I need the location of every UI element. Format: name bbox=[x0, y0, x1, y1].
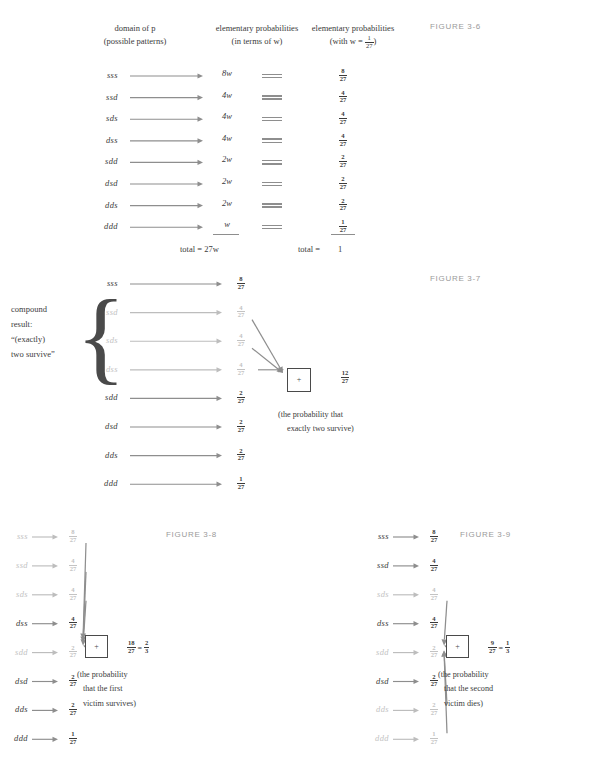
fraction-numerator: 4 bbox=[339, 111, 348, 118]
probability-numeric: 227 bbox=[325, 154, 361, 168]
equals-icon bbox=[262, 115, 282, 123]
probability-in-terms-of-w: 2w bbox=[207, 154, 247, 164]
pattern-row: sds bbox=[0, 111, 589, 125]
probability-in-terms-of-w: 4w bbox=[207, 90, 247, 100]
probability-numeric: 227 bbox=[325, 198, 361, 212]
pattern-label: sds bbox=[88, 113, 118, 123]
sum-arrow bbox=[252, 320, 283, 373]
figure-3-9: FIGURE 3-9 sss827ssd427sds427dss427sdd22… bbox=[294, 520, 589, 777]
probability-in-terms-of-w: w bbox=[207, 219, 247, 229]
fraction-numerator: 4 bbox=[339, 133, 348, 140]
probability-fraction: 227 bbox=[339, 198, 348, 212]
equals-icon bbox=[262, 223, 282, 231]
equals-sign: = bbox=[136, 644, 145, 653]
pattern-row: sdd bbox=[0, 154, 589, 168]
equals-icon bbox=[262, 137, 282, 145]
fraction-denominator: 27 bbox=[339, 183, 348, 191]
pattern-label: sss bbox=[88, 70, 118, 80]
pattern-label: ddd bbox=[88, 221, 118, 231]
note-line-2: that the second bbox=[438, 682, 578, 696]
total-rule-w bbox=[213, 234, 239, 235]
pattern-label: ssd bbox=[88, 92, 118, 102]
note-line-1: (the probability bbox=[77, 668, 207, 682]
pattern-row: ssd bbox=[0, 90, 589, 104]
probability-fraction: 127 bbox=[339, 219, 348, 233]
probability-numeric: 427 bbox=[325, 90, 361, 104]
figure-3-7-note: (the probability that exactly two surviv… bbox=[278, 408, 418, 437]
probability-numeric: 827 bbox=[325, 68, 361, 82]
probability-fraction: 427 bbox=[339, 133, 348, 147]
pattern-label: dds bbox=[88, 200, 118, 210]
sum-box[interactable]: + bbox=[287, 368, 311, 392]
flow-arrow bbox=[258, 367, 284, 372]
probability-numeric: 127 bbox=[325, 219, 361, 233]
equals-icon bbox=[262, 180, 282, 188]
pattern-label: dss bbox=[88, 135, 118, 145]
fraction-denominator: 27 bbox=[339, 161, 348, 169]
simplified-fraction: 1 3 bbox=[505, 640, 510, 654]
note-line-3: victim dies) bbox=[438, 697, 578, 711]
equals-sign: = bbox=[497, 644, 506, 653]
figure-3-8: FIGURE 3-8 sss827ssd427sds427dss427sdd22… bbox=[0, 520, 295, 777]
figure-3-9-sum-arrows bbox=[294, 520, 589, 777]
pattern-label: sdd bbox=[88, 156, 118, 166]
sum-box[interactable]: + bbox=[85, 635, 108, 658]
probability-in-terms-of-w: 8w bbox=[207, 68, 247, 78]
probability-fraction: 427 bbox=[339, 90, 348, 104]
fraction-numerator: 1 bbox=[339, 219, 348, 226]
probability-numeric: 427 bbox=[325, 111, 361, 125]
total-rule-numeric bbox=[331, 234, 355, 235]
probability-fraction: 227 bbox=[339, 154, 348, 168]
figure-3-7-result: 12 27 bbox=[330, 370, 360, 384]
equals-icon bbox=[262, 158, 282, 166]
equals-icon bbox=[262, 202, 282, 210]
simplified-fraction: 2 3 bbox=[144, 640, 149, 654]
figure-3-7: FIGURE 3-7 { compound result: “(exactly)… bbox=[0, 262, 589, 520]
probability-numeric: 227 bbox=[325, 176, 361, 190]
pattern-label: dsd bbox=[88, 178, 118, 188]
fraction-numerator: 2 bbox=[339, 176, 348, 183]
fraction-numerator: 2 bbox=[339, 198, 348, 205]
figure-3-9-note: (the probability that the second victim … bbox=[438, 668, 578, 711]
probability-fraction: 227 bbox=[339, 176, 348, 190]
probability-in-terms-of-w: 4w bbox=[207, 111, 247, 121]
fraction-numerator: 4 bbox=[339, 90, 348, 97]
note-line-1: (the probability bbox=[438, 668, 578, 682]
probability-fraction: 427 bbox=[339, 111, 348, 125]
probability-in-terms-of-w: 2w bbox=[207, 198, 247, 208]
result-fraction: 18 27 bbox=[127, 640, 136, 654]
pattern-row: dss bbox=[0, 133, 589, 147]
sum-box[interactable]: + bbox=[446, 635, 469, 658]
fraction-denominator: 27 bbox=[339, 226, 348, 234]
fraction-denominator: 27 bbox=[339, 118, 348, 126]
total-in-w-label: total = 27w bbox=[180, 244, 219, 254]
figure-3-8-result: 18 27 = 2 3 bbox=[127, 637, 149, 655]
probability-numeric: 427 bbox=[325, 133, 361, 147]
result-fraction: 9 27 bbox=[488, 640, 497, 654]
pattern-row: dds bbox=[0, 198, 589, 212]
total-numeric-label: total = bbox=[298, 244, 320, 254]
equals-icon bbox=[262, 94, 282, 102]
fraction-denominator: 27 bbox=[339, 140, 348, 148]
probability-fraction: 827 bbox=[339, 68, 348, 82]
figure-3-6: domain of p (possible patterns) elementa… bbox=[0, 0, 589, 262]
pattern-row: sss bbox=[0, 68, 589, 82]
equals-icon bbox=[262, 72, 282, 80]
fraction-numerator: 8 bbox=[339, 68, 348, 75]
pattern-row: ddd bbox=[0, 219, 589, 233]
note-line-2: exactly two survive) bbox=[278, 422, 418, 436]
result-fraction: 12 27 bbox=[341, 370, 350, 384]
fraction-denominator: 27 bbox=[339, 96, 348, 104]
note-line-2: that the first bbox=[77, 682, 207, 696]
fraction-denominator: 27 bbox=[339, 204, 348, 212]
pattern-row: dsd bbox=[0, 176, 589, 190]
note-line-1: (the probability that bbox=[278, 408, 418, 422]
note-line-3: victim survives) bbox=[77, 697, 207, 711]
fraction-numerator: 2 bbox=[339, 154, 348, 161]
fraction-denominator: 27 bbox=[339, 75, 348, 83]
probability-in-terms-of-w: 2w bbox=[207, 176, 247, 186]
figure-3-9-result: 9 27 = 1 3 bbox=[488, 637, 510, 655]
probability-in-terms-of-w: 4w bbox=[207, 133, 247, 143]
total-numeric-value: 1 bbox=[338, 244, 342, 254]
figure-3-8-note: (the probability that the first victim s… bbox=[77, 668, 207, 711]
